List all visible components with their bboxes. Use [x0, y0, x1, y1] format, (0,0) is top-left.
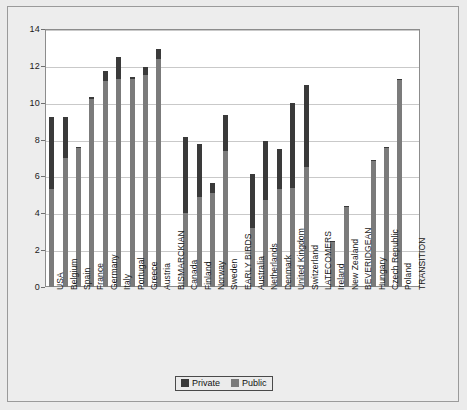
chart-figure: 02468101214 USABelgiumSpainFranceGermany…	[0, 0, 467, 410]
y-tick-label: 0	[35, 282, 40, 292]
x-axis-label: France	[95, 263, 105, 290]
y-tick-label: 10	[30, 98, 40, 108]
x-axis-label: Poland	[403, 263, 413, 290]
legend-swatch-private	[181, 379, 189, 387]
bar	[143, 67, 148, 287]
bar-segment-public	[130, 79, 135, 287]
x-axis-label: Greece	[149, 262, 159, 290]
x-axis-group-label: BISMARCKIAN	[176, 230, 186, 290]
x-axis-group-label: TRANSITION	[417, 238, 427, 290]
x-axis-label: Finland	[203, 261, 213, 290]
x-axis-label: Australia	[256, 256, 266, 290]
bar-segment-public	[63, 158, 68, 287]
bar	[116, 57, 121, 287]
x-axis-label: Spain	[82, 268, 92, 290]
x-axis-label: Austria	[162, 263, 172, 290]
x-axis-label: Ireland	[336, 263, 346, 290]
x-axis-label: Italy	[122, 274, 132, 290]
y-tick-label: 12	[30, 61, 40, 71]
legend-entry-public: Public	[231, 378, 267, 388]
bar	[49, 117, 54, 287]
bar-segment-public	[103, 81, 108, 287]
y-tick-label: 4	[35, 208, 40, 218]
x-axis-labels: USABelgiumSpainFranceGermanyItalyPortuga…	[45, 289, 420, 384]
legend-entry-private: Private	[181, 378, 220, 388]
x-axis-label: Norway	[216, 261, 226, 290]
legend-label-public: Public	[242, 378, 267, 388]
x-axis-label: Portugal	[136, 258, 146, 290]
legend-swatch-public	[231, 379, 239, 387]
x-axis-label: USA	[55, 272, 65, 290]
x-axis-group-label: LATECOMERS	[323, 231, 333, 290]
bar	[130, 77, 135, 287]
x-axis-label: Hungary	[377, 257, 387, 290]
y-axis: 02468101214	[8, 29, 45, 287]
bar-segment-public	[89, 99, 94, 287]
chart-legend: Private Public	[175, 376, 273, 391]
x-axis-label: Netherlands	[269, 243, 279, 290]
bar	[103, 71, 108, 287]
bar	[89, 97, 94, 287]
x-axis-label: Canada	[189, 260, 199, 290]
x-axis-label: Belgium	[69, 259, 79, 290]
legend-label-private: Private	[192, 378, 220, 388]
x-axis-label: Switzerland	[310, 245, 320, 290]
bar	[63, 117, 68, 287]
y-tick-label: 6	[35, 171, 40, 181]
bar	[156, 49, 161, 287]
y-tick-label: 8	[35, 135, 40, 145]
y-tick-mark	[41, 287, 45, 288]
x-axis-group-label: BEVERIDGEAN	[363, 227, 373, 290]
bar-segment-public	[156, 59, 161, 288]
x-axis-group-label: EARLY BIRDS	[243, 233, 253, 290]
x-axis-label: Czech Republic	[390, 229, 400, 290]
bar-segment-public	[143, 75, 148, 287]
y-tick-label: 2	[35, 245, 40, 255]
x-axis-label: Denmark	[283, 255, 293, 290]
x-axis-label: Germany	[109, 254, 119, 290]
bar-segment-public	[49, 189, 54, 287]
y-tick-label: 14	[30, 24, 40, 34]
figure-frame: 02468101214 USABelgiumSpainFranceGermany…	[7, 6, 459, 402]
x-axis-label: United Kingdom	[296, 228, 306, 290]
x-axis-label: New Zealand	[350, 239, 360, 290]
x-axis-label: Sweden	[229, 259, 239, 290]
